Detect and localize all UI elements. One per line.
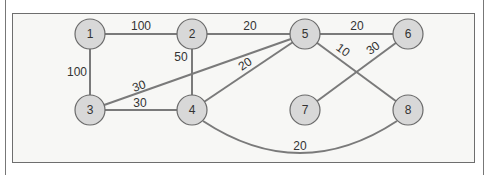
node-3: 3 bbox=[75, 95, 105, 125]
node-7: 7 bbox=[290, 95, 320, 125]
node-6-label: 6 bbox=[405, 27, 412, 41]
weight-4-8: 20 bbox=[293, 139, 307, 153]
node-6: 6 bbox=[393, 19, 423, 49]
weight-2-5: 20 bbox=[243, 19, 257, 33]
node-8-label: 8 bbox=[405, 103, 412, 117]
weight-3-4: 30 bbox=[133, 96, 147, 110]
weight-1-2: 100 bbox=[131, 19, 151, 33]
weight-3-5: 30 bbox=[130, 77, 147, 95]
node-3-label: 3 bbox=[87, 103, 94, 117]
weight-2-4: 50 bbox=[174, 50, 188, 64]
node-4-label: 4 bbox=[189, 103, 196, 117]
node-4: 4 bbox=[177, 95, 207, 125]
node-2-label: 2 bbox=[189, 27, 196, 41]
node-2: 2 bbox=[177, 19, 207, 49]
node-7-label: 7 bbox=[302, 103, 309, 117]
weight-1-3: 100 bbox=[67, 65, 87, 79]
graph-canvas: 100 20 20 100 50 30 30 20 10 30 20 1 2 5… bbox=[0, 0, 488, 175]
node-1: 1 bbox=[75, 19, 105, 49]
node-1-label: 1 bbox=[87, 27, 94, 41]
node-5-label: 5 bbox=[302, 27, 309, 41]
weight-5-6: 20 bbox=[350, 19, 364, 33]
edge-4-5 bbox=[192, 34, 305, 110]
node-5: 5 bbox=[290, 19, 320, 49]
node-8: 8 bbox=[393, 95, 423, 125]
